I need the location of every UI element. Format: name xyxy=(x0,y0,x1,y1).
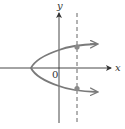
y-axis-label: y xyxy=(56,0,63,11)
parabola-diagram: y x 0 xyxy=(0,0,125,129)
intersection-point-lower xyxy=(74,86,79,91)
graph-canvas: y x 0 xyxy=(0,0,125,129)
origin-label: 0 xyxy=(52,69,58,80)
x-axis-label: x xyxy=(115,62,121,73)
intersection-point-upper xyxy=(74,44,79,49)
